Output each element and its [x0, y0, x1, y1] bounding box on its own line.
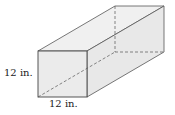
width-label: 12 in.	[49, 98, 78, 109]
rectangular-prism	[0, 0, 175, 115]
front-face	[38, 51, 87, 97]
height-label: 12 in.	[4, 67, 33, 78]
